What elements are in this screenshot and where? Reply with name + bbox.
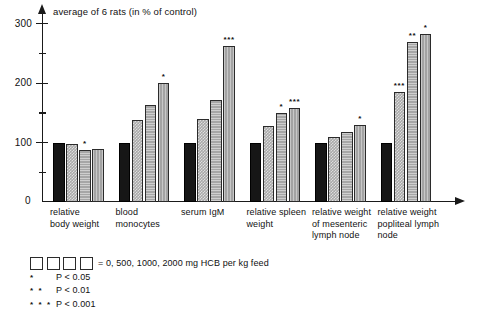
legend-swatch-series-3 xyxy=(80,257,93,270)
chart-legend: = 0, 500, 1000, 2000 mg HCB per kg feed … xyxy=(30,256,460,311)
legend-significance-stars: * xyxy=(30,273,56,282)
x-category-label: serum IgM xyxy=(181,207,224,219)
legend-swatch-series-0 xyxy=(30,257,43,270)
legend-significance-stars: * * xyxy=(30,286,56,295)
x-category-label: relative weight of mesenteric lymph node xyxy=(312,207,371,242)
legend-significance-row: * * *P < 0.001 xyxy=(30,300,460,311)
bar xyxy=(92,149,104,202)
bar xyxy=(210,100,222,202)
legend-series-row: = 0, 500, 1000, 2000 mg HCB per kg feed xyxy=(30,256,460,270)
chart-figure: average of 6 rats (in % of control) 0 10… xyxy=(0,0,490,324)
legend-significance-row: * *P < 0.01 xyxy=(30,286,460,297)
bar xyxy=(250,143,262,202)
significance-marker: * xyxy=(75,141,95,147)
y-tick-label: 200 xyxy=(15,78,32,88)
bar xyxy=(132,120,144,202)
legend-significance-text: P < 0.05 xyxy=(56,273,90,282)
x-category-label: relative spleen weight xyxy=(247,207,307,230)
significance-marker: *** xyxy=(219,37,239,43)
bar xyxy=(53,143,65,202)
bar xyxy=(119,143,131,202)
bar xyxy=(197,119,209,202)
bar xyxy=(420,34,432,202)
plot-area: **************** xyxy=(42,12,454,202)
significance-marker: * xyxy=(154,74,174,80)
bar xyxy=(407,42,419,202)
legend-significance-text: P < 0.001 xyxy=(56,300,96,309)
bar xyxy=(184,143,196,202)
legend-significance-row: *P < 0.05 xyxy=(30,273,460,284)
bar xyxy=(66,144,78,202)
bar xyxy=(315,143,327,202)
legend-significance-levels: *P < 0.05* *P < 0.01* * *P < 0.001 xyxy=(30,273,460,311)
bar xyxy=(289,108,301,202)
bar xyxy=(158,83,170,202)
bar xyxy=(145,105,157,202)
bar xyxy=(354,125,366,202)
x-category-label: relative weight popliteal lymph node xyxy=(378,207,440,242)
bar xyxy=(223,46,235,202)
y-tick-label: 300 xyxy=(15,19,32,29)
bar xyxy=(79,150,91,202)
bar xyxy=(263,126,275,202)
legend-significance-stars: * * * xyxy=(30,300,56,309)
legend-significance-text: P < 0.01 xyxy=(56,286,90,295)
y-tick-label: 100 xyxy=(15,138,32,148)
x-category-label: blood monocytes xyxy=(116,207,160,230)
legend-swatch-series-1 xyxy=(47,257,60,270)
bar xyxy=(341,132,353,202)
bar xyxy=(394,92,406,202)
significance-marker: *** xyxy=(285,99,305,105)
x-axis-arrow-icon xyxy=(455,197,465,205)
y-axis-origin-label: 0 xyxy=(25,196,31,206)
legend-series-label: = 0, 500, 1000, 2000 mg HCB per kg feed xyxy=(98,258,269,269)
significance-marker: * xyxy=(416,25,436,31)
bar xyxy=(381,143,393,202)
bar xyxy=(276,113,288,202)
significance-marker: * xyxy=(350,116,370,122)
x-category-label: relative body weight xyxy=(50,207,99,230)
bar xyxy=(328,137,340,202)
legend-swatch-series-2 xyxy=(63,257,76,270)
